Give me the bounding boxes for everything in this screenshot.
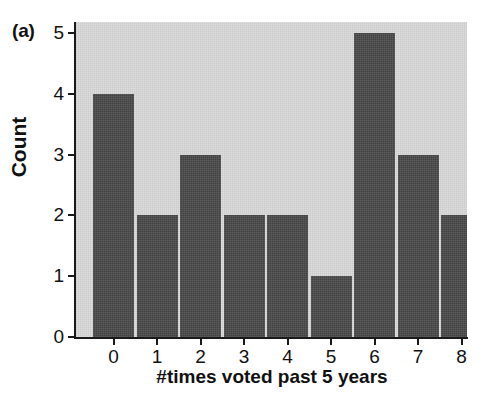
x-tick-mark: [287, 338, 289, 345]
y-tick-label: 4: [40, 83, 64, 105]
x-tick-mark: [374, 338, 376, 345]
x-tick-label: 5: [316, 346, 346, 368]
x-tick-label: 6: [360, 346, 390, 368]
x-tick-label: 1: [142, 346, 172, 368]
x-tick-mark: [113, 338, 115, 345]
y-tick-label: 3: [40, 144, 64, 166]
x-tick-label: 3: [229, 346, 259, 368]
x-tick-mark: [417, 338, 419, 345]
y-tick-mark: [68, 336, 75, 338]
x-tick-mark: [200, 338, 202, 345]
bar: [354, 33, 395, 337]
bar: [93, 94, 134, 337]
bar: [137, 215, 178, 337]
bar: [398, 155, 439, 337]
y-tick-label: 0: [40, 326, 64, 348]
y-tick-mark: [68, 275, 75, 277]
x-axis-line: [74, 337, 468, 339]
x-tick-label: 7: [403, 346, 433, 368]
y-tick-mark: [68, 93, 75, 95]
panel-label: (a): [12, 20, 35, 42]
x-tick-label: 4: [273, 346, 303, 368]
bar: [311, 276, 352, 337]
x-tick-mark: [461, 338, 463, 345]
y-tick-mark: [68, 214, 75, 216]
y-tick-mark: [68, 32, 75, 34]
bar: [441, 215, 467, 337]
x-tick-label: 2: [186, 346, 216, 368]
figure-panel-a: (a) Count 012345 012345678 #times voted …: [0, 0, 490, 400]
x-tick-mark: [243, 338, 245, 345]
y-tick-label: 2: [40, 204, 64, 226]
x-tick-label: 0: [99, 346, 129, 368]
bar: [267, 215, 308, 337]
y-tick-label: 1: [40, 265, 64, 287]
plot-area: [76, 22, 467, 337]
y-tick-mark: [68, 154, 75, 156]
bar: [180, 155, 221, 337]
x-axis-title: #times voted past 5 years: [76, 366, 468, 388]
y-tick-label: 5: [40, 22, 64, 44]
x-tick-mark: [330, 338, 332, 345]
bar: [224, 215, 265, 337]
y-axis-line: [74, 22, 76, 339]
y-axis-title: Count: [7, 87, 31, 207]
x-tick-label: 8: [447, 346, 477, 368]
x-tick-mark: [156, 338, 158, 345]
